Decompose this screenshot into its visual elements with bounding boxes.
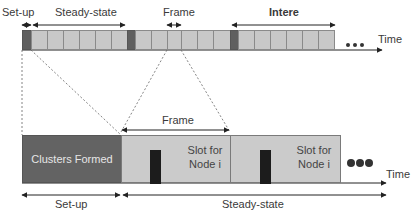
slot-cell [286, 30, 303, 50]
frame-label-bottom: Frame [162, 114, 194, 126]
slot-label-line2: Node i [287, 157, 341, 171]
setup-label-top: Set-up [2, 6, 34, 18]
ellipsis-dot [365, 159, 373, 167]
slot-cell [151, 30, 168, 50]
slot-cell [135, 30, 152, 50]
slot-cell [302, 30, 319, 50]
setup-label-bottom: Set-up [55, 198, 87, 210]
ellipsis-dot [360, 43, 364, 47]
slot-cell [167, 30, 182, 50]
frame-label-top: Frame [163, 6, 195, 18]
node-slot: Slot for Node i [121, 135, 231, 183]
slot-cell [270, 30, 287, 50]
interval-label-top: Intere [269, 6, 299, 18]
guide-setup-right [31, 50, 121, 135]
ellipsis-dot [346, 43, 350, 47]
slot-cell [79, 30, 96, 50]
slot-cell [213, 30, 231, 50]
clusters-formed-label: Clusters Formed [23, 153, 121, 165]
slot-cell [197, 30, 214, 50]
steady-state-label-bottom: Steady-state [222, 198, 284, 210]
guide-frame-left [121, 50, 167, 132]
ellipsis-dot [356, 159, 364, 167]
slot-label-line1: Slot for [287, 143, 341, 157]
slot-cell [181, 30, 198, 50]
slot-cell [318, 30, 335, 50]
transmission-bar [260, 150, 271, 184]
time-label-bottom: Time [386, 168, 410, 180]
slot-label-line2: Node i [178, 157, 232, 171]
slot-cell [254, 30, 271, 50]
clusters-formed-box: Clusters Formed [22, 135, 122, 183]
ellipsis-dot [347, 159, 355, 167]
transmission-bar [150, 150, 161, 184]
slot-cell [95, 30, 112, 50]
slot-cell [47, 30, 64, 50]
slot-label: Slot for Node i [287, 143, 341, 171]
time-label-top: Time [378, 33, 402, 45]
slot-cell [31, 30, 48, 50]
slot-cell [63, 30, 80, 50]
ellipsis-dot [353, 43, 357, 47]
node-slot: Slot for Node i [230, 135, 341, 183]
slot-label-line1: Slot for [178, 143, 232, 157]
slot-cell [238, 30, 255, 50]
slot-cell [111, 30, 128, 50]
slot-label: Slot for Node i [178, 143, 232, 171]
steady-state-label-top: Steady-state [55, 6, 117, 18]
